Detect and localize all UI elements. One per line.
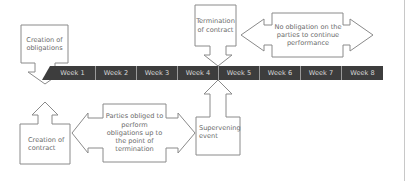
timeline-week-2: Week 2 <box>96 66 137 80</box>
label-termination-of-contract: Termination of contract <box>195 7 236 44</box>
timeline-week-3: Week 3 <box>137 66 178 80</box>
timeline-week-7: Week 7 <box>301 66 342 80</box>
right-edge-divider <box>404 0 405 181</box>
timeline-week-4: Week 4 <box>178 66 219 80</box>
label-no-obligation: No obligation on the parties to continue… <box>268 15 348 55</box>
timeline-week-1: Week 1 <box>50 66 96 80</box>
timeline-week-8: Week 8 <box>342 66 383 80</box>
timeline-week-5: Week 5 <box>219 66 260 80</box>
label-creation-of-obligations: Creation of obligations <box>21 27 68 61</box>
label-supervening-event: Supervening event <box>199 121 240 143</box>
timeline-bar: Week 1 Week 2 Week 3 Week 4 Week 5 Week … <box>50 66 383 80</box>
label-creation-of-contract: Creation of contract <box>28 128 70 160</box>
timeline-week-6: Week 6 <box>260 66 301 80</box>
label-parties-obliged: Parties obliged to perform obligations u… <box>100 106 169 160</box>
up-arrow-callout-supervening-event <box>196 80 240 155</box>
